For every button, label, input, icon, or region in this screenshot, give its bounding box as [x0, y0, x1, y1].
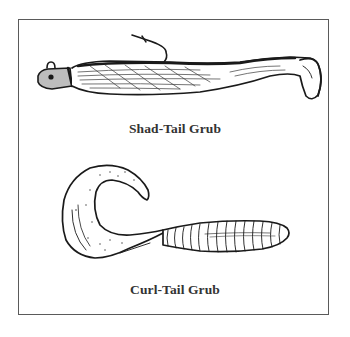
curl-tail-caption: Curl-Tail Grub — [0, 282, 350, 298]
shad-tail-caption: Shad-Tail Grub — [0, 121, 350, 137]
curl-tail-grub-drawing — [62, 165, 289, 258]
shad-tail-grub-drawing — [38, 35, 321, 99]
